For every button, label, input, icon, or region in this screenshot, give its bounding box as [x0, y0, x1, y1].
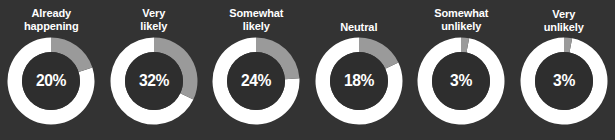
gauge-cell: Very likely32%: [103, 0, 206, 140]
donut-chart: 32%: [110, 37, 198, 125]
donut-hole: [227, 52, 285, 110]
gauge-cell: Somewhat unlikely3%: [410, 0, 513, 140]
gauge-cell: Neutral18%: [308, 0, 411, 140]
gauge-label: Very likely: [104, 7, 204, 34]
donut-chart: 3%: [520, 37, 608, 125]
donut-svg: [417, 37, 505, 125]
donut-hole: [125, 52, 183, 110]
gauge-cell: Already happening20%: [0, 0, 103, 140]
donut-svg: [7, 37, 95, 125]
donut-chart: 3%: [417, 37, 505, 125]
donut-hole: [432, 52, 490, 110]
donut-chart: 24%: [212, 37, 300, 125]
donut-gauge-row: Already happening20%Very likely32%Somewh…: [0, 0, 615, 140]
donut-hole: [535, 52, 593, 110]
gauge-label: Somewhat unlikely: [411, 7, 511, 34]
donut-hole: [22, 52, 80, 110]
donut-svg: [212, 37, 300, 125]
donut-chart: 20%: [7, 37, 95, 125]
gauge-label: Very unlikely: [514, 7, 614, 34]
donut-svg: [315, 37, 403, 125]
gauge-label: Somewhat likely: [206, 7, 306, 34]
donut-hole: [330, 52, 388, 110]
donut-svg: [520, 37, 608, 125]
donut-chart: 18%: [315, 37, 403, 125]
gauge-cell: Very unlikely3%: [513, 0, 615, 140]
donut-svg: [110, 37, 198, 125]
gauge-label: Already happening: [1, 7, 101, 34]
gauge-label: Neutral: [309, 7, 409, 34]
gauge-cell: Somewhat likely24%: [205, 0, 308, 140]
